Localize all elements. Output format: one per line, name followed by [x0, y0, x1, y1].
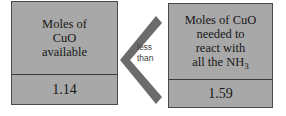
left-box-label-line-3: available [42, 45, 87, 59]
left-quantity-box: Moles of CuO available 1.14 [11, 1, 118, 105]
right-box-label-line-1: Moles of CuO [185, 13, 257, 27]
right-box-value: 1.59 [169, 79, 272, 107]
comparator-group: less than [118, 14, 168, 106]
right-box-label: Moles of CuO needed to react with all th… [169, 4, 272, 79]
comparator-label-line-2: than [137, 53, 167, 64]
right-box-label-line-3: react with [196, 41, 246, 55]
right-box-label-line-2: needed to [196, 27, 244, 41]
comparison-diagram: Moles of CuO available 1.14 less than Mo… [0, 0, 286, 116]
formula-prefix: all the NH [192, 55, 244, 69]
left-box-label-line-1: Moles of [42, 17, 87, 31]
right-quantity-box: Moles of CuO needed to react with all th… [168, 3, 273, 108]
left-box-label: Moles of CuO available [12, 2, 117, 74]
comparator-label-line-1: less [137, 42, 167, 53]
formula-subscript: 3 [244, 61, 249, 71]
left-box-label-line-2: CuO [53, 31, 77, 45]
right-box-formula-line: all the NH3 [192, 55, 249, 69]
comparator-label: less than [137, 42, 167, 63]
left-box-value: 1.14 [12, 74, 117, 104]
